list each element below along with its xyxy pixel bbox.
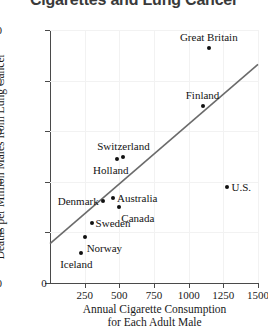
gridline-vertical	[258, 30, 259, 283]
chart-figure: Cigarettes and Lung Cancer Deaths per Mi…	[0, 0, 268, 332]
x-tick-label: 1500	[247, 289, 268, 301]
y-tick-label: 100	[0, 226, 2, 238]
data-point	[90, 221, 94, 225]
data-point-label: Great Britain	[180, 31, 238, 43]
y-tick-label: 500	[0, 24, 2, 36]
y-tick-label: 0	[0, 277, 2, 289]
y-tick-label: 300	[0, 125, 2, 137]
data-point-label: Finland	[186, 89, 220, 101]
y-axis-title-text: Deaths per Million Males from Lung Cance…	[0, 30, 6, 283]
data-point-label: Denmark	[58, 195, 99, 207]
y-tick	[45, 182, 50, 183]
x-axis-title: Annual Cigarette Consumption for Each Ad…	[50, 303, 259, 329]
gridline-vertical	[223, 30, 224, 283]
x-tick-label: 250	[76, 289, 93, 301]
gridline-vertical	[189, 30, 190, 283]
gridline-vertical	[154, 30, 155, 283]
y-tick	[45, 30, 50, 31]
data-point-label: Australia	[117, 192, 157, 204]
chart-title: Cigarettes and Lung Cancer	[0, 0, 268, 9]
data-point-label: Holland	[93, 164, 128, 176]
x-tick-label: 750	[146, 289, 163, 301]
y-tick	[45, 232, 50, 233]
x-tick	[258, 283, 259, 288]
x-tick	[154, 283, 155, 288]
x-axis-title-line2: for Each Adult Male	[50, 316, 259, 329]
data-point	[201, 104, 205, 108]
x-tick	[189, 283, 190, 288]
data-point	[83, 235, 87, 239]
x-tick-label: 1000	[178, 289, 200, 301]
data-point	[207, 46, 211, 50]
x-tick-label: 1250	[212, 289, 234, 301]
plot-area: 0100200300400500 0250500750100012501500 …	[50, 30, 258, 283]
x-axis-title-line1: Annual Cigarette Consumption	[50, 303, 259, 316]
data-point-label: Sweden	[96, 217, 131, 229]
data-point-label: Switzerland	[97, 140, 150, 152]
gridline-vertical	[85, 30, 86, 283]
data-point-label: Iceland	[60, 258, 92, 270]
data-point	[111, 196, 115, 200]
data-point	[225, 185, 229, 189]
y-tick	[45, 81, 50, 82]
data-point	[121, 155, 125, 159]
data-point-label: Norway	[87, 242, 122, 254]
data-point	[101, 199, 105, 203]
x-tick	[85, 283, 86, 288]
x-tick	[119, 283, 120, 288]
y-tick-label: 200	[0, 176, 2, 188]
data-point	[117, 205, 121, 209]
y-tick-label: 400	[0, 75, 2, 87]
x-tick	[223, 283, 224, 288]
x-tick-label: 0	[41, 277, 47, 289]
data-point	[79, 251, 83, 255]
data-point	[115, 157, 119, 161]
x-tick-label: 500	[111, 289, 128, 301]
y-tick	[45, 131, 50, 132]
data-point-label: U.S.	[231, 181, 251, 193]
